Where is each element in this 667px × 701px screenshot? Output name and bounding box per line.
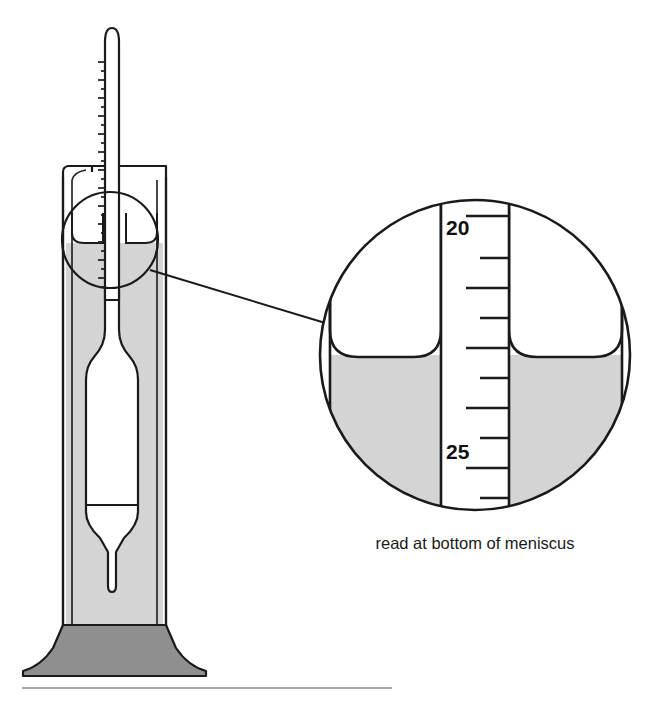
mag-scale-label-25: 25 — [446, 440, 470, 463]
mag-liquid-left — [330, 355, 441, 514]
magnified-view-group: 20 25 — [318, 198, 634, 514]
cylinder-base — [23, 625, 206, 676]
caption-read-at-bottom-of-meniscus: read at bottom of meniscus — [375, 534, 574, 552]
pour-spout — [63, 166, 92, 177]
stem-tube — [105, 28, 119, 300]
mag-meniscus-left — [330, 198, 441, 357]
pour-spout-inner — [72, 170, 86, 180]
mag-stem-fill — [441, 198, 509, 514]
meniscus-left — [72, 213, 103, 243]
cylinder-rim — [92, 166, 166, 177]
figure-root: 20 25 read at bottom of meniscus — [0, 0, 667, 701]
main-view-group — [23, 28, 332, 676]
mag-liquid-right — [509, 355, 622, 514]
hydrometer-diagram: 20 25 read at bottom of meniscus — [0, 0, 667, 701]
mag-meniscus-right — [509, 198, 622, 357]
base-fill — [23, 625, 206, 676]
callout-leader-line — [150, 270, 332, 325]
hydrometer-stem — [105, 28, 119, 300]
mag-scale-label-20: 20 — [446, 216, 469, 239]
